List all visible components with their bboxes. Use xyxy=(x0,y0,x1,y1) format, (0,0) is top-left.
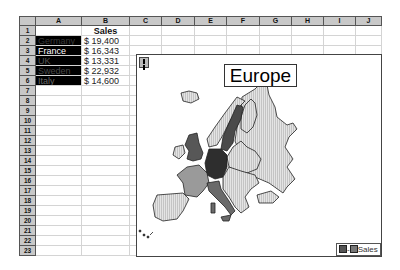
column-header-d[interactable]: D xyxy=(162,16,195,26)
row-header-3[interactable]: 3 xyxy=(19,46,36,56)
column-header-f[interactable]: F xyxy=(227,16,260,26)
grid-cell[interactable] xyxy=(36,216,82,226)
grid-cell[interactable] xyxy=(82,106,130,116)
grid-cell[interactable] xyxy=(130,36,162,46)
grid-cell[interactable] xyxy=(82,146,130,156)
row-header-6[interactable]: 6 xyxy=(19,76,36,86)
row-header-5[interactable]: 5 xyxy=(19,66,36,76)
grid-cell[interactable] xyxy=(82,236,130,246)
grid-cell[interactable] xyxy=(162,26,195,36)
grid-cell[interactable] xyxy=(82,196,130,206)
grid-cell[interactable] xyxy=(82,96,130,106)
grid-cell[interactable] xyxy=(195,36,227,46)
row-header-22[interactable]: 22 xyxy=(19,236,36,246)
grid-cell[interactable] xyxy=(36,166,82,176)
column-header-c[interactable]: C xyxy=(130,16,162,26)
column-header-b[interactable]: B xyxy=(82,16,130,26)
cell-b1[interactable]: Sales xyxy=(82,26,130,36)
grid-cell[interactable] xyxy=(130,26,162,36)
grid-cell[interactable] xyxy=(356,36,382,46)
map-chart[interactable]: Europe -Sales xyxy=(136,54,382,257)
grid-cell[interactable] xyxy=(36,96,82,106)
grid-cell[interactable] xyxy=(260,36,292,46)
grid-cell[interactable] xyxy=(36,126,82,136)
row-header-11[interactable]: 11 xyxy=(19,126,36,136)
row-header-10[interactable]: 10 xyxy=(19,116,36,126)
column-header-a[interactable]: A xyxy=(36,16,82,26)
grid-cell[interactable] xyxy=(292,26,324,36)
column-header-h[interactable]: H xyxy=(292,16,324,26)
grid-cell[interactable] xyxy=(82,86,130,96)
grid-cell[interactable] xyxy=(36,226,82,236)
cell-b6[interactable]: $ 14,600 xyxy=(82,76,130,86)
row-header-8[interactable]: 8 xyxy=(19,96,36,106)
grid-cell[interactable] xyxy=(36,116,82,126)
grid-cell[interactable] xyxy=(82,166,130,176)
cell-a6[interactable]: Italy xyxy=(36,76,82,86)
row-header-1[interactable]: 1 xyxy=(19,26,36,36)
row-header-20[interactable]: 20 xyxy=(19,216,36,226)
column-header-g[interactable]: G xyxy=(260,16,292,26)
map-title[interactable]: Europe xyxy=(224,64,297,87)
grid-cell[interactable] xyxy=(227,36,260,46)
grid-cell[interactable] xyxy=(82,156,130,166)
grid-cell[interactable] xyxy=(82,136,130,146)
grid-cell[interactable] xyxy=(324,36,356,46)
row-header-12[interactable]: 12 xyxy=(19,136,36,146)
column-header-j[interactable]: J xyxy=(356,16,382,26)
grid-cell[interactable] xyxy=(82,216,130,226)
grid-cell[interactable] xyxy=(36,86,82,96)
grid-cell[interactable] xyxy=(36,176,82,186)
grid-cell[interactable] xyxy=(36,136,82,146)
grid-cell[interactable] xyxy=(36,156,82,166)
grid-cell[interactable] xyxy=(324,26,356,36)
grid-cell[interactable] xyxy=(260,26,292,36)
grid-cell[interactable] xyxy=(292,36,324,46)
row-header-17[interactable]: 17 xyxy=(19,186,36,196)
cell-a3[interactable]: France xyxy=(36,46,82,56)
map-legend[interactable]: -Sales xyxy=(336,243,381,256)
grid-cell[interactable] xyxy=(36,236,82,246)
grid-cell[interactable] xyxy=(82,226,130,236)
column-header-i[interactable]: I xyxy=(324,16,356,26)
grid-cell[interactable] xyxy=(36,26,82,36)
grid-cell[interactable] xyxy=(195,26,227,36)
grid-cell[interactable] xyxy=(227,26,260,36)
grid-cell[interactable] xyxy=(82,126,130,136)
grid-cell[interactable] xyxy=(82,116,130,126)
row-header-9[interactable]: 9 xyxy=(19,106,36,116)
grid-cell[interactable] xyxy=(36,206,82,216)
cell-b5[interactable]: $ 22,932 xyxy=(82,66,130,76)
cell-b3[interactable]: $ 16,343 xyxy=(82,46,130,56)
grid-cell[interactable] xyxy=(82,176,130,186)
row-header-19[interactable]: 19 xyxy=(19,206,36,216)
cell-a4[interactable]: UK xyxy=(36,56,82,66)
grid-cell[interactable] xyxy=(356,26,382,36)
row-header-4[interactable]: 4 xyxy=(19,56,36,66)
row-header-7[interactable]: 7 xyxy=(19,86,36,96)
select-all-corner[interactable] xyxy=(19,16,36,26)
cell-b2[interactable]: $ 19,400 xyxy=(82,36,130,46)
row-header-21[interactable]: 21 xyxy=(19,226,36,236)
row-header-14[interactable]: 14 xyxy=(19,156,36,166)
row-header-15[interactable]: 15 xyxy=(19,166,36,176)
grid-cell[interactable] xyxy=(36,106,82,116)
cell-a2[interactable]: Germany xyxy=(36,36,82,46)
grid-cell[interactable] xyxy=(36,146,82,156)
row-header-18[interactable]: 18 xyxy=(19,196,36,206)
row-header-23[interactable]: 23 xyxy=(19,246,36,256)
row-header-2[interactable]: 2 xyxy=(19,36,36,46)
grid-cell[interactable] xyxy=(162,36,195,46)
row-header-13[interactable]: 13 xyxy=(19,146,36,156)
grid-cell[interactable] xyxy=(82,246,130,256)
grid-cell[interactable] xyxy=(36,246,82,256)
grid-cell[interactable] xyxy=(36,196,82,206)
row-header-16[interactable]: 16 xyxy=(19,176,36,186)
cell-b4[interactable]: $ 13,331 xyxy=(82,56,130,66)
grid-cell[interactable] xyxy=(82,206,130,216)
cell-a5[interactable]: Sweden xyxy=(36,66,82,76)
grid-cell[interactable] xyxy=(36,186,82,196)
grid-cell[interactable] xyxy=(82,186,130,196)
column-header-e[interactable]: E xyxy=(195,16,227,26)
chart-options-icon[interactable] xyxy=(139,57,149,68)
